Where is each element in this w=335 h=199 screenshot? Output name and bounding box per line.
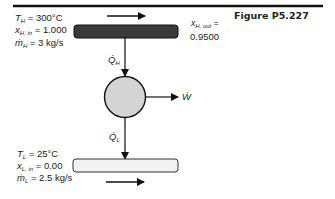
hot-temperature-label: TH = 300°C (15, 13, 63, 24)
heat-out-label: Q̇L (109, 132, 120, 143)
hot-quality-in-label: xH, in = 1.000 (15, 25, 67, 36)
cold-mass-flow-label: ṁL = 2.5 kg/s (17, 173, 72, 184)
cold-temperature-label: TL = 25°C (17, 149, 58, 160)
heat-engine-circle (105, 77, 146, 118)
hot-quality-out-label: xH, out = (191, 19, 219, 29)
hot-pipe (74, 25, 178, 38)
heat-in-label: Q̇H (108, 55, 120, 66)
hot-quality-out-value: 0.9500 (190, 32, 219, 42)
work-label: Ẇ (182, 92, 191, 102)
figure-title: Figure P5.227 (234, 10, 309, 21)
cold-quality-in-label: xL, in = 0.00 (17, 161, 62, 172)
hot-mass-flow-label: ṁH = 3 kg/s (15, 38, 63, 49)
cold-pipe (73, 159, 178, 172)
